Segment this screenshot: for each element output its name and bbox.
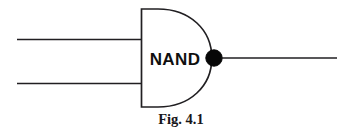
gate-label: NAND xyxy=(150,50,201,69)
nand-gate-diagram: NAND Fig. 4.1 xyxy=(0,0,351,131)
nand-gate-figure: NAND Fig. 4.1 xyxy=(0,0,351,131)
figure-caption: Fig. 4.1 xyxy=(158,111,204,127)
inversion-bubble xyxy=(206,50,222,66)
